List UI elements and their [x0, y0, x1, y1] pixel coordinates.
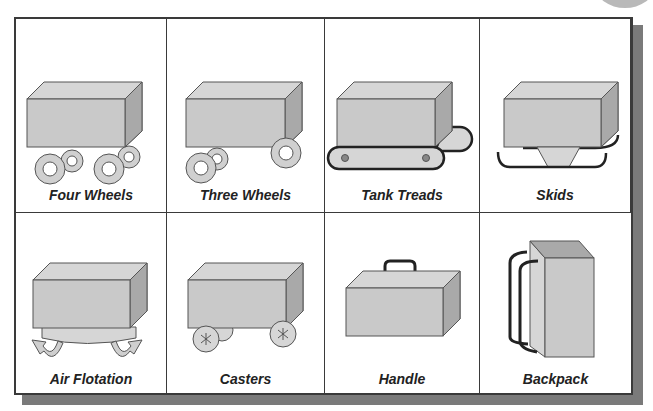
box-with-three-wheels-icon — [167, 19, 325, 213]
label-three-wheels: Three Wheels — [167, 187, 324, 203]
box-on-casters-icon — [167, 213, 325, 393]
box-with-handle-icon — [325, 213, 480, 393]
cell-air-flotation: Air Flotation — [16, 213, 167, 393]
box-on-skids-icon — [480, 19, 630, 213]
cell-three-wheels: Three Wheels — [167, 19, 325, 213]
cell-handle: Handle — [325, 213, 480, 393]
label-four-wheels: Four Wheels — [16, 187, 166, 203]
cell-tank-treads: Tank Treads — [325, 19, 480, 213]
label-handle: Handle — [325, 371, 479, 387]
box-on-air-cushion-icon — [16, 213, 167, 393]
box-on-tank-treads-icon — [325, 19, 480, 213]
cell-backpack: Backpack — [480, 213, 631, 393]
label-backpack: Backpack — [480, 371, 631, 387]
label-tank-treads: Tank Treads — [325, 187, 479, 203]
corner-decoration — [596, 0, 653, 8]
mobility-options-grid: Four Wheels Three Wheels — [14, 17, 633, 395]
label-skids: Skids — [480, 187, 630, 203]
box-with-backpack-straps-icon — [480, 213, 630, 393]
label-air-flotation: Air Flotation — [16, 371, 166, 387]
label-casters: Casters — [167, 371, 324, 387]
cell-skids: Skids — [480, 19, 631, 213]
cell-casters: Casters — [167, 213, 325, 393]
box-with-four-wheels-icon — [16, 19, 167, 213]
cell-four-wheels: Four Wheels — [16, 19, 167, 213]
